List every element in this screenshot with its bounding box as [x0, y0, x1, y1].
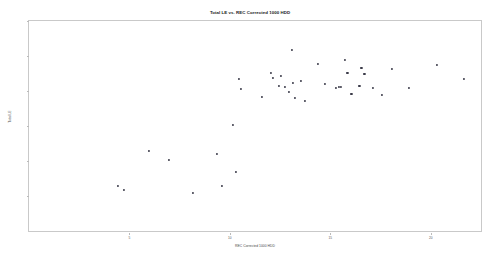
- x-axis-label: REC Corrected 1000 HDD: [28, 244, 482, 249]
- data-point: [300, 80, 302, 82]
- y-tick-mark: [27, 91, 29, 92]
- data-point: [317, 63, 319, 65]
- x-tick-label: 5: [129, 236, 131, 240]
- data-point: [192, 191, 194, 193]
- data-point: [221, 184, 223, 186]
- data-point: [168, 159, 170, 161]
- y-tick-mark: [27, 126, 29, 127]
- data-point: [294, 97, 296, 99]
- data-point: [360, 67, 362, 69]
- data-point: [291, 49, 293, 51]
- data-point: [278, 85, 280, 87]
- data-point: [235, 171, 237, 173]
- data-point: [358, 85, 360, 87]
- data-point: [408, 87, 410, 89]
- data-point: [284, 86, 286, 88]
- data-point: [381, 94, 383, 96]
- data-point: [238, 78, 240, 80]
- data-point: [117, 185, 119, 187]
- data-point: [280, 75, 282, 77]
- data-point: [350, 93, 352, 95]
- data-point: [340, 86, 342, 88]
- data-point: [344, 59, 346, 61]
- data-point: [216, 153, 218, 155]
- y-tick-mark: [27, 21, 29, 22]
- y-axis-label: Total LE: [8, 97, 13, 137]
- x-tick-label: 15: [329, 236, 333, 240]
- data-point: [371, 87, 373, 89]
- chart-title: Total LE vs. REC Corrected 1000 HDD: [0, 10, 500, 16]
- plot-frame: 7476788082845101520: [28, 20, 482, 232]
- plot-area: [29, 21, 481, 231]
- data-point: [123, 189, 125, 191]
- data-point: [363, 73, 365, 75]
- x-tick-label: 10: [228, 236, 232, 240]
- data-point: [335, 86, 337, 88]
- data-point: [240, 88, 242, 90]
- data-point: [304, 100, 306, 102]
- data-point: [346, 72, 348, 74]
- data-point: [288, 91, 290, 93]
- data-point: [147, 150, 149, 152]
- y-tick-mark: [27, 56, 29, 57]
- data-point: [324, 83, 326, 85]
- data-point: [463, 78, 465, 80]
- data-point: [391, 68, 393, 70]
- y-tick-mark: [27, 196, 29, 197]
- scatter-chart-figure: Total LE vs. REC Corrected 1000 HDD 7476…: [0, 0, 500, 263]
- y-tick-mark: [27, 161, 29, 162]
- data-point: [436, 64, 438, 66]
- data-point: [292, 82, 294, 84]
- data-point: [261, 96, 263, 98]
- data-point: [232, 124, 234, 126]
- x-tick-label: 20: [429, 236, 433, 240]
- data-point: [272, 77, 274, 79]
- data-point: [270, 72, 272, 74]
